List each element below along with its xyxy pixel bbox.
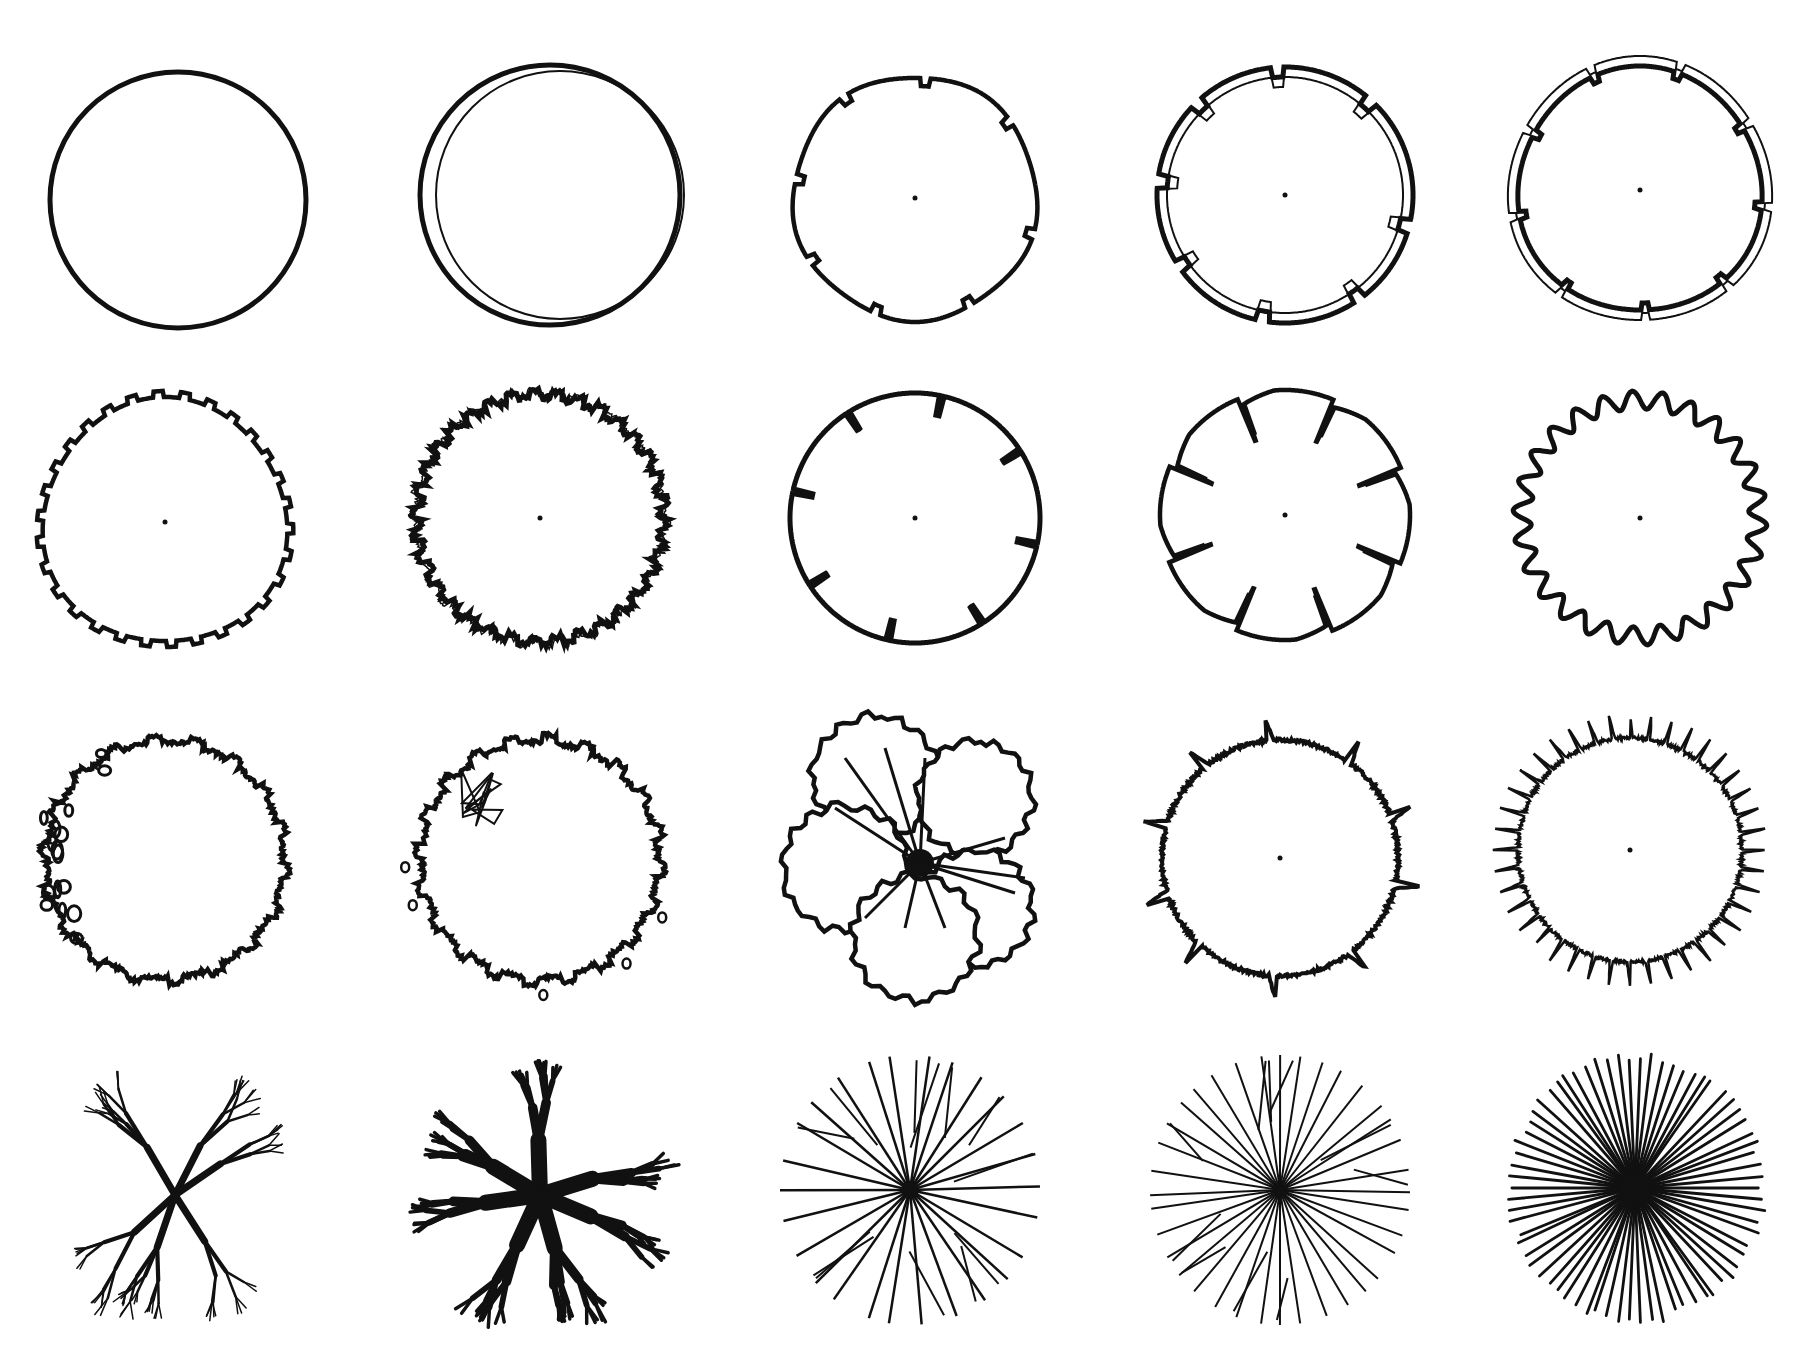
symbol-gear-tooth-circle (1500, 378, 1780, 658)
symbol-sparse-spikes (1140, 718, 1420, 998)
symbol-spiky-fringed (1490, 710, 1770, 990)
symbol-radial-star (1140, 1050, 1420, 1330)
symbol-rough-irregular-circle (400, 378, 680, 658)
symbol-notched-circle (775, 58, 1055, 338)
symbol-dense-radial (1495, 1048, 1775, 1328)
tree-symbol-sheet: Plan-view tree / shrub symbol sheet: 20 … (0, 0, 1812, 1353)
symbol-irregular-branch-detail (400, 720, 680, 1000)
symbol-plain-circle (38, 60, 318, 340)
symbol-double-ring-stepped-notches (1145, 55, 1425, 335)
symbol-double-offset-circle (412, 55, 692, 335)
symbol-bare-branch-thin (35, 1055, 315, 1335)
symbol-double-ring-small-notches (1500, 50, 1780, 330)
symbol-bare-branch-heavy (400, 1055, 680, 1335)
symbol-lobed-circle-zigzag (1145, 375, 1425, 655)
symbol-circle-radial-slits (775, 378, 1055, 658)
symbol-wavy-scalloped-circle (25, 382, 305, 662)
symbol-radial-branching (770, 1050, 1050, 1330)
symbol-irregular-leaf-dots (25, 720, 305, 1000)
symbol-lobed-canopy-trunk (775, 718, 1055, 998)
